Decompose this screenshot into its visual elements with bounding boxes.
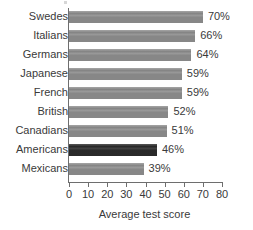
category-label: British <box>0 105 68 118</box>
plot-area: Swedes70%Italians66%Germans64%Japanese59… <box>0 0 253 230</box>
bar-rows: Swedes70%Italians66%Germans64%Japanese59… <box>0 8 253 179</box>
bar-row: Swedes70% <box>0 8 253 27</box>
bar-value-label: 59% <box>187 67 209 80</box>
bar-value-label: 66% <box>200 29 222 42</box>
y-axis-line <box>68 8 69 182</box>
bar <box>69 30 195 42</box>
bar-row: Italians66% <box>0 27 253 46</box>
bar-row: Germans64% <box>0 46 253 65</box>
x-axis-tick <box>126 183 127 187</box>
category-label: Canadians <box>0 124 68 137</box>
category-label: Germans <box>0 48 68 61</box>
x-axis-title: Average test score <box>0 207 253 221</box>
bar-row: French59% <box>0 84 253 103</box>
bar-value-label: 59% <box>187 86 209 99</box>
category-label: Italians <box>0 29 68 42</box>
bar <box>69 125 167 137</box>
bar-chart: Swedes70%Italians66%Germans64%Japanese59… <box>0 0 253 230</box>
category-label: Americans <box>0 143 68 156</box>
bar <box>69 68 182 80</box>
category-label: French <box>0 86 68 99</box>
bar-row: British52% <box>0 103 253 122</box>
x-axis-tick <box>165 183 166 187</box>
x-axis-tick <box>107 183 108 187</box>
bar-value-label: 46% <box>162 143 184 156</box>
bar-row: Canadians51% <box>0 122 253 141</box>
bar-row: Mexicans39% <box>0 160 253 179</box>
bar <box>69 106 168 118</box>
x-axis-title-text: Average test score <box>99 207 191 221</box>
bar-value-label: 64% <box>196 48 218 61</box>
x-axis-tick-label: 80 <box>207 188 237 201</box>
bar-row: Japanese59% <box>0 65 253 84</box>
category-label: Mexicans <box>0 162 68 175</box>
bar-row: Americans46% <box>0 141 253 160</box>
bar <box>69 163 144 175</box>
bar-value-label: 52% <box>173 105 195 118</box>
category-label: Japanese <box>0 67 68 80</box>
bar <box>69 87 182 99</box>
x-axis-tick <box>184 183 185 187</box>
category-label: Swedes <box>0 10 68 23</box>
bar <box>69 49 191 61</box>
x-axis-tick <box>146 183 147 187</box>
x-axis-tick <box>222 183 223 187</box>
bar-value-label: 70% <box>208 10 230 23</box>
bar-value-label: 51% <box>172 124 194 137</box>
x-axis-tick <box>69 183 70 187</box>
x-axis-tick <box>203 183 204 187</box>
bar-highlighted <box>69 144 157 156</box>
bar-value-label: 39% <box>149 162 171 175</box>
bar <box>69 11 203 23</box>
x-axis-tick <box>88 183 89 187</box>
